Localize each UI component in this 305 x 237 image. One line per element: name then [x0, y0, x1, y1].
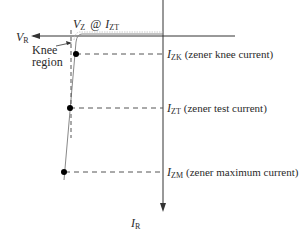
izm-label: IZM(zener maximum current) [166, 165, 299, 180]
vr-axis-label: VR [16, 30, 29, 45]
izk-point [73, 51, 79, 57]
izm-point [61, 169, 67, 175]
izt-point [67, 105, 73, 111]
knee-label-line2: region [32, 55, 63, 69]
zener-characteristic-diagram: VR IR VZ@IZT Knee region IZK(zener knee … [0, 0, 305, 237]
ir-axis-label: IR [130, 216, 141, 231]
izt-label: IZT(zener test current) [166, 101, 267, 116]
zener-curve [64, 34, 163, 180]
vr-axis-arrow-icon [31, 33, 40, 39]
ir-axis-arrow-icon [160, 203, 166, 212]
vz-at-izt-label: VZ@IZT [73, 17, 119, 32]
izk-label: IZK(zener knee current) [166, 47, 274, 62]
